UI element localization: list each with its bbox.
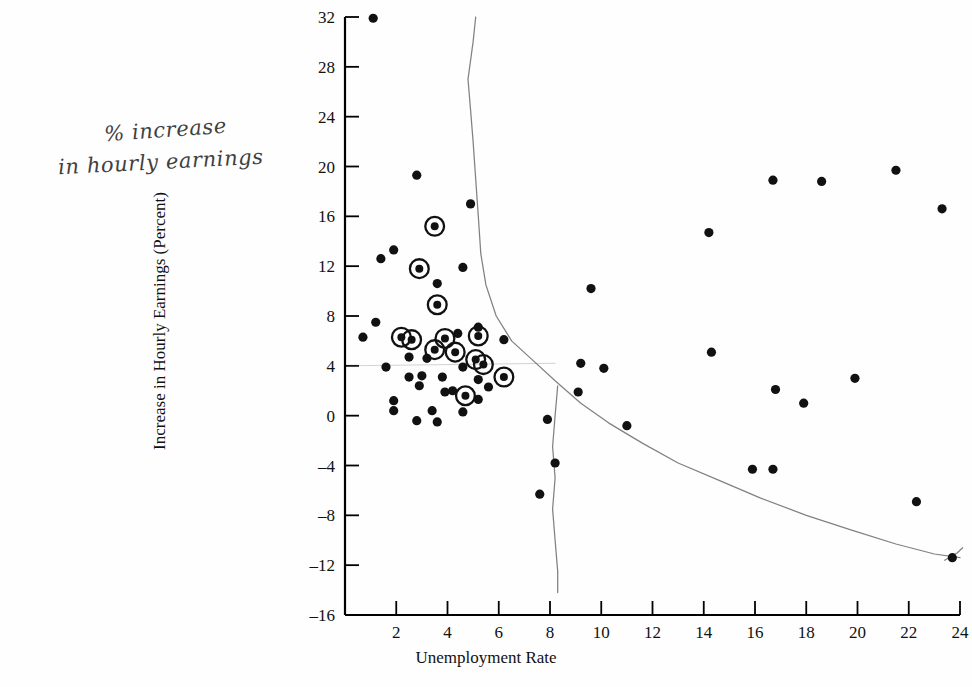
data-point: [937, 204, 946, 213]
data-point-highlighted: [494, 368, 513, 387]
y-axis-title: Increase in Hourly Earnings (Percent): [150, 21, 170, 621]
data-point-highlighted: [402, 330, 421, 349]
chart-canvas: –16–12–8–4048121620242832246810121416182…: [0, 0, 972, 687]
data-point: [912, 497, 921, 506]
data-point-highlighted: [456, 386, 475, 405]
phillips-curve: [468, 17, 960, 558]
data-point: [543, 415, 552, 424]
data-point: [431, 346, 439, 354]
scatter-plot: –16–12–8–4048121620242832246810121416182…: [0, 0, 972, 687]
data-point: [461, 392, 469, 400]
data-point: [704, 228, 713, 237]
data-point: [441, 334, 449, 342]
vertical-natural-rate-line: [553, 386, 558, 593]
data-point: [458, 407, 467, 416]
x-tick-label: 12: [644, 623, 661, 642]
data-point: [389, 245, 398, 254]
data-point: [948, 553, 957, 562]
data-point: [466, 199, 475, 208]
x-tick-label: 20: [849, 623, 866, 642]
data-point: [381, 362, 390, 371]
data-point: [358, 333, 367, 342]
data-point: [404, 372, 413, 381]
data-point: [586, 284, 595, 293]
x-tick-label: 24: [952, 623, 970, 642]
data-point: [707, 348, 716, 357]
x-tick-label: 8: [546, 623, 555, 642]
data-point: [433, 279, 442, 288]
data-point-highlighted: [425, 340, 444, 359]
data-point: [799, 399, 808, 408]
data-point: [484, 382, 493, 391]
data-point: [417, 371, 426, 380]
x-tick-label: 14: [695, 623, 713, 642]
data-point-highlighted: [425, 217, 444, 236]
data-point: [768, 465, 777, 474]
x-axis-title: Unemployment Rate: [0, 648, 972, 668]
data-point: [415, 265, 423, 273]
data-point: [622, 421, 631, 430]
y-tick-label: –4: [317, 457, 336, 476]
data-point: [479, 361, 487, 369]
y-tick-label: –16: [309, 606, 336, 625]
y-tick-label: 0: [327, 407, 336, 426]
data-point: [817, 177, 826, 186]
y-tick-label: 16: [318, 207, 335, 226]
data-point: [428, 406, 437, 415]
data-point: [499, 335, 508, 344]
x-tick-label: 16: [747, 623, 764, 642]
data-point: [412, 171, 421, 180]
data-point: [389, 396, 398, 405]
data-point: [458, 263, 467, 272]
data-point: [891, 166, 900, 175]
data-point: [404, 353, 413, 362]
data-point: [574, 387, 583, 396]
y-tick-label: 8: [327, 307, 336, 326]
data-point: [771, 385, 780, 394]
y-tick-label: 12: [318, 257, 335, 276]
data-point: [431, 222, 439, 230]
data-point: [371, 318, 380, 327]
data-point: [576, 359, 585, 368]
y-tick-label: 28: [318, 58, 335, 77]
data-point: [412, 416, 421, 425]
data-point: [408, 336, 416, 344]
horizontal-faint-guide: [348, 363, 555, 366]
data-point: [748, 465, 757, 474]
data-point-highlighted: [436, 329, 455, 348]
data-point: [389, 406, 398, 415]
data-point: [551, 458, 560, 467]
data-point: [438, 372, 447, 381]
data-point: [433, 417, 442, 426]
y-tick-label: –12: [309, 556, 336, 575]
data-point-highlighted: [410, 259, 429, 278]
data-point: [440, 387, 449, 396]
data-point: [535, 490, 544, 499]
x-tick-label: 2: [392, 623, 401, 642]
data-point-highlighted: [446, 343, 465, 362]
data-point: [474, 375, 483, 384]
x-tick-label: 6: [495, 623, 504, 642]
data-point: [768, 176, 777, 185]
x-tick-label: 10: [593, 623, 610, 642]
data-point: [415, 381, 424, 390]
data-point: [474, 332, 482, 340]
data-point: [369, 14, 378, 23]
points-layer: [358, 14, 957, 563]
data-point: [599, 364, 608, 373]
y-tick-label: –8: [317, 506, 335, 525]
x-tick-label: 18: [798, 623, 815, 642]
data-point: [451, 348, 459, 356]
axes-layer: –16–12–8–4048121620242832246810121416182…: [309, 8, 970, 642]
data-point: [433, 301, 441, 309]
y-tick-label: 20: [318, 158, 335, 177]
data-point: [850, 374, 859, 383]
y-tick-label: 4: [327, 357, 336, 376]
y-tick-label: 32: [318, 8, 335, 27]
x-tick-label: 4: [443, 623, 452, 642]
data-point: [500, 373, 508, 381]
data-point: [376, 254, 385, 263]
x-tick-label: 22: [900, 623, 917, 642]
y-tick-label: 24: [318, 108, 336, 127]
data-point-highlighted: [428, 295, 447, 314]
